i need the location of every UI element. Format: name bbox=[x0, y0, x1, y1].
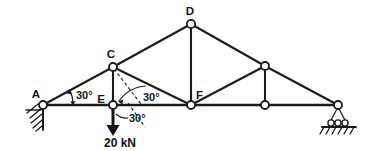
roller-hatch-2 bbox=[326, 127, 330, 134]
load-arrow-group bbox=[107, 107, 120, 136]
member-C-D bbox=[113, 24, 191, 67]
joint-C bbox=[109, 63, 117, 71]
member-D-G bbox=[191, 24, 265, 66]
pin-hatch-5 bbox=[27, 104, 38, 113]
roller-hatch-3 bbox=[332, 127, 336, 134]
joint-G bbox=[261, 62, 269, 70]
member-G-B bbox=[265, 66, 338, 105]
roller-support-right bbox=[320, 107, 356, 134]
roller-wheel-3 bbox=[342, 120, 348, 126]
joint-D bbox=[187, 20, 195, 28]
angle-label-below-E: 30° bbox=[129, 112, 146, 124]
roller-hatch-5 bbox=[344, 127, 348, 134]
truss-diagram: A C E D F 30° 30° 30° 20 kN bbox=[0, 0, 369, 151]
joint-A bbox=[39, 101, 47, 109]
joint-H bbox=[261, 101, 269, 109]
angle-label-C-F: 30° bbox=[143, 91, 160, 103]
angle-labels: 30° 30° 30° bbox=[76, 89, 160, 124]
load-label: 20 kN bbox=[104, 136, 136, 150]
roller-hatch-4 bbox=[338, 127, 342, 134]
roller-hatch-6 bbox=[350, 127, 354, 134]
angle-label-at-A: 30° bbox=[76, 89, 93, 101]
joint-label-A: A bbox=[32, 88, 40, 100]
joint-B bbox=[334, 101, 342, 109]
roller-hatch-1 bbox=[320, 127, 324, 134]
load-arrow-head bbox=[107, 125, 120, 136]
joint-label-F: F bbox=[196, 89, 203, 101]
joint-label-E: E bbox=[97, 93, 105, 105]
joint-label-C: C bbox=[107, 48, 115, 60]
roller-wheel-1 bbox=[328, 120, 334, 126]
joint-E bbox=[109, 101, 117, 109]
joint-label-D: D bbox=[186, 5, 194, 17]
joint-labels: A C E D F bbox=[32, 5, 203, 105]
roller-wheel-2 bbox=[335, 120, 341, 126]
angle-arc-below-E bbox=[116, 114, 128, 118]
pin-hatch-4 bbox=[36, 126, 42, 131]
joint-F bbox=[187, 101, 195, 109]
truss-diagram-canvas: A C E D F 30° 30° 30° 20 kN bbox=[0, 0, 369, 151]
